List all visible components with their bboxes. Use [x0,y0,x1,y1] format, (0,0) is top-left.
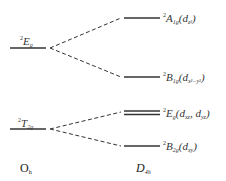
orbital-close: ) [201,71,205,83]
term-symbol: E [166,107,173,119]
point-group-symbol: O [20,161,29,175]
term-symbol: B [166,140,173,152]
term-symbol: A [166,12,173,24]
term-symbol: B [166,71,173,83]
term-label-b1g: 2B1g(dx²−y²) [163,71,205,84]
point-group-subscript: 4h [145,169,151,175]
term-label-eg-oh: 2Eg [20,35,33,48]
point-group-symbol: D [136,161,145,175]
point-group-label-d4h: D4h [136,162,151,175]
orbital-label: (d [176,107,185,119]
orbital-close: ) [206,107,210,119]
orbital-label: (d [179,140,188,152]
orbital-label: (d [179,71,188,83]
correlation-t2g-to-b2g [50,129,121,146]
correlation-eg-to-b1g [50,48,121,77]
orbital-subscript: x²−y² [188,78,201,84]
orbital-close: ) [192,12,196,24]
orbital-separator: , d [190,107,201,119]
correlation-eg-to-a1g [50,18,121,48]
term-label-eg-d4h: 2Eg(dxz, dyz) [163,107,210,120]
point-group-label-oh: Oh [20,162,32,175]
energy-level-diagram [0,0,226,181]
term-label-b2g: 2B2g(dxy) [163,140,197,153]
term-subscript: g [30,42,33,48]
correlation-t2g-to-eg [50,112,121,129]
term-label-t2g-oh: 2T2g [18,117,33,130]
orbital-close: ) [193,140,197,152]
orbital-label: (d [179,12,188,24]
term-symbol: E [23,35,30,47]
point-group-subscript: h [29,169,32,175]
term-label-a1g: 2A1g(dz²) [163,12,196,25]
term-subscript: 2g [27,124,33,130]
